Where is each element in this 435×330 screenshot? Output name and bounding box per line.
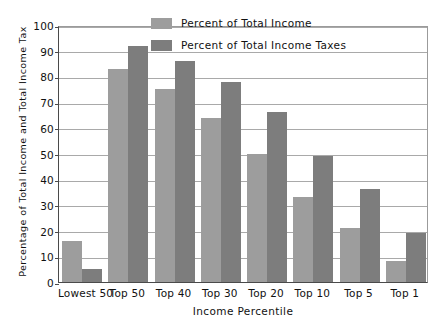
legend-item: Percent of Total Income <box>151 12 411 34</box>
bar-group <box>201 27 241 282</box>
y-axis-tickmark <box>55 284 59 285</box>
bar-group <box>247 27 287 282</box>
x-axis-tick-label: Top 5 <box>336 287 382 299</box>
x-axis-tick-label: Lowest 50 <box>58 287 104 299</box>
bar-percent-of-total-income-taxes <box>128 46 148 282</box>
chart-legend: Percent of Total IncomePercent of Total … <box>151 12 411 56</box>
bar-group <box>386 27 426 282</box>
x-axis-tick-label: Top 20 <box>243 287 289 299</box>
x-axis-tick-label: Top 1 <box>382 287 428 299</box>
y-axis-tick-label: 40 <box>18 175 54 185</box>
y-axis-tick-label: 100 <box>18 21 54 31</box>
bar-percent-of-total-income <box>293 197 313 282</box>
y-axis-tick-label: 90 <box>18 47 54 57</box>
y-axis-tick-labels: 1009080706050403020100 <box>18 26 54 283</box>
bar-percent-of-total-income <box>201 118 221 282</box>
x-axis-title: Income Percentile <box>58 305 428 317</box>
bar-percent-of-total-income-taxes <box>406 233 426 282</box>
x-axis-tick-labels: Lowest 50Top 50Top 40Top 30Top 20Top 10T… <box>58 287 428 303</box>
x-axis-tick-label: Top 50 <box>104 287 150 299</box>
y-axis-tick-label: 70 <box>18 98 54 108</box>
bar-group <box>293 27 333 282</box>
y-axis-tick-label: 10 <box>18 252 54 262</box>
bar-group <box>155 27 195 282</box>
bar-percent-of-total-income <box>62 241 82 282</box>
legend-label: Percent of Total Income Taxes <box>181 39 346 51</box>
x-axis-tick-label: Top 10 <box>289 287 335 299</box>
y-axis-tick-label: 50 <box>18 150 54 160</box>
bar-percent-of-total-income-taxes <box>82 269 102 282</box>
bars-layer <box>59 27 427 282</box>
y-axis-tick-label: 30 <box>18 201 54 211</box>
bar-percent-of-total-income-taxes <box>267 112 287 282</box>
y-axis-tick-label: 80 <box>18 72 54 82</box>
bar-percent-of-total-income <box>155 89 175 282</box>
legend-swatch-icon <box>151 40 172 51</box>
legend-swatch-icon <box>151 18 172 29</box>
bar-percent-of-total-income <box>247 154 267 283</box>
bar-percent-of-total-income <box>108 69 128 282</box>
y-axis-tick-label: 60 <box>18 124 54 134</box>
bar-chart: Percentage of Total Income and Total Inc… <box>0 0 435 330</box>
bar-percent-of-total-income <box>386 261 406 282</box>
bar-percent-of-total-income-taxes <box>313 156 333 282</box>
y-axis-tick-label: 0 <box>18 278 54 288</box>
plot-area <box>58 26 428 283</box>
legend-label: Percent of Total Income <box>181 17 312 29</box>
bar-group <box>340 27 380 282</box>
x-axis-tick-label: Top 40 <box>151 287 197 299</box>
y-axis-tick-label: 20 <box>18 227 54 237</box>
bar-percent-of-total-income <box>340 228 360 282</box>
bar-percent-of-total-income-taxes <box>221 82 241 282</box>
bar-group <box>62 27 102 282</box>
bar-percent-of-total-income-taxes <box>175 61 195 282</box>
bar-percent-of-total-income-taxes <box>360 189 380 282</box>
legend-item: Percent of Total Income Taxes <box>151 34 411 56</box>
x-axis-tick-label: Top 30 <box>197 287 243 299</box>
bar-group <box>108 27 148 282</box>
